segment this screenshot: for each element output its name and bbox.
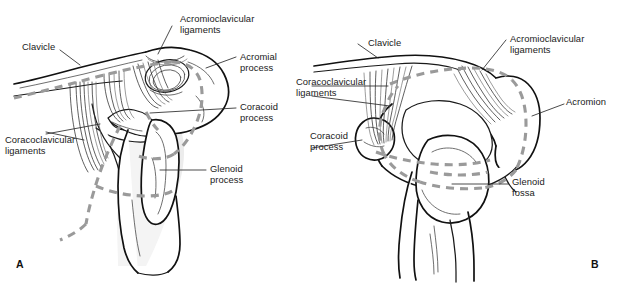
label-coracoid-process-b: Coracoid process — [310, 130, 372, 152]
label-clavicle-a: Clavicle — [22, 41, 92, 52]
anatomy-figure: Clavicle Acromioclavicular ligaments Acr… — [0, 0, 620, 283]
label-clavicle-b: Clavicle — [368, 37, 426, 48]
label-glenoid-fossa-b: Glenoid fossa — [512, 176, 572, 198]
label-acromion-b: Acromion — [566, 96, 620, 107]
label-glenoid-process-a: Glenoid process — [210, 163, 276, 185]
label-acromioclavicular-ligaments-a: Acromioclavicular ligaments — [180, 13, 300, 35]
label-acromial-process-a: Acromial process — [240, 51, 306, 73]
label-coracoid-process-a: Coracoid process — [240, 101, 306, 123]
panel-letter-a: A — [16, 258, 24, 270]
label-coracoclavicular-ligaments-a: Coracoclavicular ligaments — [5, 134, 109, 156]
label-acromioclavicular-ligaments-b: Acromioclavicular ligaments — [510, 33, 620, 55]
panel-letter-b: B — [591, 258, 599, 270]
label-coracoclavicular-ligaments-b: Coracoclavicular ligaments — [296, 76, 402, 98]
